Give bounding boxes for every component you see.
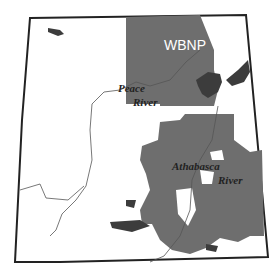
clearing [200,170,214,184]
athabasca-river-label-2: River [217,174,243,186]
park-label: WBNP [164,37,206,53]
map: WBNP Peace River Athabasca River [0,0,279,279]
peace-river-label-2: River [132,96,158,108]
athabasca-river-label-1: Athabasca [171,160,220,172]
peace-river-label-1: Peace [118,82,145,94]
